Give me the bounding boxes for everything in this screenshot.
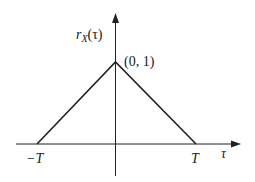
x-axis-arrow-icon: [231, 141, 241, 148]
left-tick-label: −T: [26, 151, 44, 166]
right-tick-label: T: [191, 151, 200, 166]
triangle-function-curve: [37, 62, 196, 144]
peak-label: (0, 1): [124, 54, 155, 70]
x-axis-label: τ: [221, 146, 227, 161]
autocorrelation-diagram: rX(τ) (0, 1) −T T τ: [0, 0, 255, 182]
y-axis-arrow-icon: [112, 13, 119, 23]
y-axis-label: rX(τ): [76, 27, 103, 44]
